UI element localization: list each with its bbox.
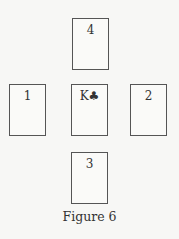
card-label: 1 [10, 89, 45, 103]
card-label: 3 [72, 157, 107, 171]
card-label: 2 [131, 89, 166, 103]
figure-caption: Figure 6 [0, 209, 179, 224]
card-1-left: 1 [9, 84, 46, 136]
card-king-of-clubs-center: K♣ [71, 84, 108, 136]
card-label: 4 [73, 23, 108, 37]
card-3-bottom: 3 [71, 152, 108, 204]
card-2-right: 2 [130, 84, 167, 136]
card-4-top: 4 [72, 18, 109, 70]
card-label: K♣ [72, 89, 107, 103]
